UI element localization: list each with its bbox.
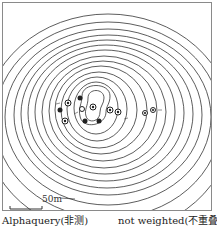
contour-plot: [0, 0, 217, 228]
caption-left: Alphaquery(非测): [2, 213, 88, 228]
scale-bar-label: 50m: [42, 194, 62, 204]
contour-line: [21, 40, 193, 188]
contour-line: [61, 72, 137, 148]
contour-line: [5, 29, 211, 205]
contour-line: [49, 61, 157, 161]
contour-line: [0, 22, 217, 218]
caption-right: not weighted(不重叠): [118, 213, 217, 228]
contour-line: [0, 14, 217, 228]
contour-lines: [0, 14, 217, 228]
